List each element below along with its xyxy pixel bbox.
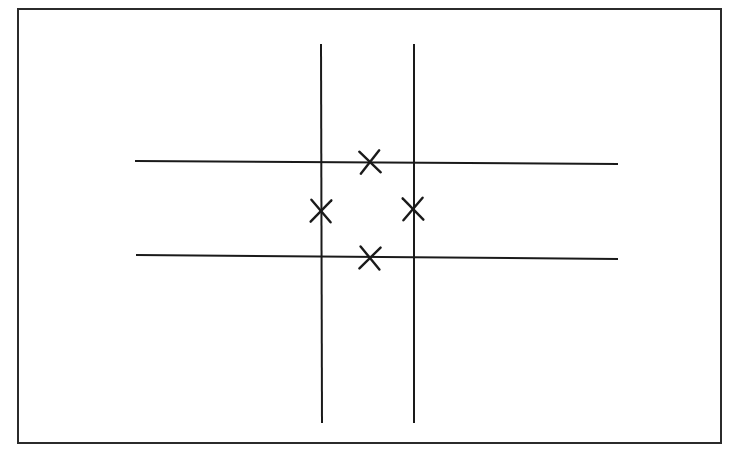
scanned-page — [0, 0, 734, 455]
page-background — [0, 0, 734, 455]
grid-diagram — [0, 0, 734, 455]
vertical-line-left — [321, 44, 322, 423]
